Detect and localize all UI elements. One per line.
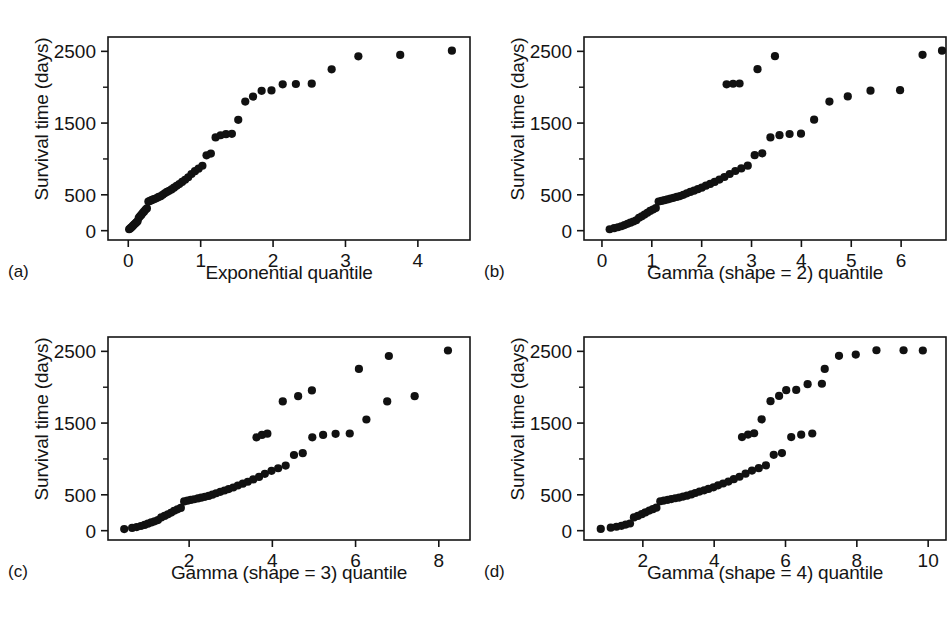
data-point bbox=[821, 365, 829, 373]
panel-b-x-axis-label: Gamma (shape = 2) quantile bbox=[584, 262, 946, 284]
panel-c-x-axis-label: Gamma (shape = 3) quantile bbox=[108, 562, 470, 584]
data-point bbox=[938, 47, 946, 55]
data-point bbox=[396, 51, 404, 59]
y-tick-label: 500 bbox=[540, 485, 572, 506]
plot-frame bbox=[108, 337, 470, 540]
figure-qq-plots-grid: Survival time (days) 01234050015002500 E… bbox=[0, 0, 952, 630]
data-point bbox=[758, 415, 766, 423]
data-point bbox=[766, 133, 774, 141]
panel-b-plot: 0123456050015002500 bbox=[476, 0, 952, 300]
data-point bbox=[918, 51, 926, 59]
y-tick-label: 2500 bbox=[530, 341, 572, 362]
panel-c-plot: 2468050015002500 bbox=[0, 300, 476, 600]
data-point bbox=[299, 449, 307, 457]
data-point bbox=[735, 79, 743, 87]
data-point bbox=[282, 461, 290, 469]
panel-a-tag: (a) bbox=[8, 262, 29, 282]
data-point bbox=[818, 380, 826, 388]
data-points bbox=[606, 47, 947, 234]
data-point bbox=[896, 86, 904, 94]
y-tick-label: 2500 bbox=[54, 41, 96, 62]
data-point bbox=[448, 47, 456, 55]
data-point bbox=[274, 464, 282, 472]
data-point bbox=[753, 65, 761, 73]
data-point bbox=[797, 431, 805, 439]
data-point bbox=[825, 97, 833, 105]
data-point bbox=[319, 431, 327, 439]
data-point bbox=[249, 92, 257, 100]
data-point bbox=[835, 352, 843, 360]
y-tick-label: 1500 bbox=[530, 113, 572, 134]
data-point bbox=[362, 415, 370, 423]
panel-a: Survival time (days) 01234050015002500 E… bbox=[0, 0, 476, 300]
data-point bbox=[750, 429, 758, 437]
panel-b: Survival time (days) 0123456050015002500… bbox=[476, 0, 952, 300]
data-point bbox=[775, 392, 783, 400]
data-point bbox=[279, 80, 287, 88]
data-point bbox=[787, 433, 795, 441]
y-tick-label: 500 bbox=[540, 185, 572, 206]
y-tick-label: 1500 bbox=[54, 113, 96, 134]
y-tick-label: 1500 bbox=[530, 413, 572, 434]
data-point bbox=[919, 346, 927, 354]
data-point bbox=[755, 464, 763, 472]
data-point bbox=[810, 116, 818, 124]
data-points bbox=[125, 47, 456, 234]
panel-b-tag: (b) bbox=[484, 262, 505, 282]
data-point bbox=[804, 380, 812, 388]
data-point bbox=[782, 386, 790, 394]
data-point bbox=[808, 429, 816, 437]
y-tick-label: 0 bbox=[85, 221, 96, 242]
data-point bbox=[792, 386, 800, 394]
data-point bbox=[279, 397, 287, 405]
data-point bbox=[872, 346, 880, 354]
data-point bbox=[778, 449, 786, 457]
panel-c-tag: (c) bbox=[8, 562, 28, 582]
data-point bbox=[354, 52, 362, 60]
data-point bbox=[292, 80, 300, 88]
data-points bbox=[120, 346, 452, 533]
y-tick-label: 0 bbox=[561, 221, 572, 242]
y-tick-label: 0 bbox=[561, 521, 572, 542]
data-point bbox=[775, 131, 783, 139]
data-point bbox=[411, 392, 419, 400]
data-point bbox=[355, 365, 363, 373]
panel-a-plot: 01234050015002500 bbox=[0, 0, 476, 300]
data-point bbox=[308, 433, 316, 441]
data-point bbox=[751, 151, 759, 159]
data-point bbox=[762, 461, 770, 469]
data-point bbox=[766, 397, 774, 405]
data-point bbox=[241, 97, 249, 105]
data-point bbox=[785, 130, 793, 138]
data-point bbox=[263, 430, 271, 438]
y-tick-label: 0 bbox=[85, 521, 96, 542]
data-point bbox=[308, 80, 316, 88]
data-point bbox=[444, 346, 452, 354]
y-tick-label: 2500 bbox=[54, 341, 96, 362]
data-point bbox=[120, 525, 128, 533]
data-point bbox=[797, 130, 805, 138]
data-point bbox=[385, 352, 393, 360]
data-point bbox=[198, 162, 206, 170]
data-point bbox=[866, 87, 874, 95]
data-point bbox=[332, 430, 340, 438]
y-tick-label: 2500 bbox=[530, 41, 572, 62]
data-point bbox=[597, 525, 605, 533]
panel-d: Survival time (days) 246810050015002500 … bbox=[476, 300, 952, 600]
plot-frame bbox=[108, 37, 470, 240]
data-point bbox=[844, 92, 852, 100]
data-points bbox=[597, 346, 927, 533]
plot-frame bbox=[584, 37, 946, 240]
panel-d-plot: 246810050015002500 bbox=[476, 300, 952, 600]
data-point bbox=[771, 52, 779, 60]
data-point bbox=[346, 429, 354, 437]
data-point bbox=[290, 451, 298, 459]
data-point bbox=[758, 149, 766, 157]
panel-d-tag: (d) bbox=[484, 562, 505, 582]
data-point bbox=[228, 130, 236, 138]
plot-frame bbox=[584, 337, 946, 540]
data-point bbox=[267, 86, 275, 94]
data-point bbox=[852, 350, 860, 358]
y-tick-label: 500 bbox=[64, 485, 96, 506]
data-point bbox=[143, 204, 151, 212]
